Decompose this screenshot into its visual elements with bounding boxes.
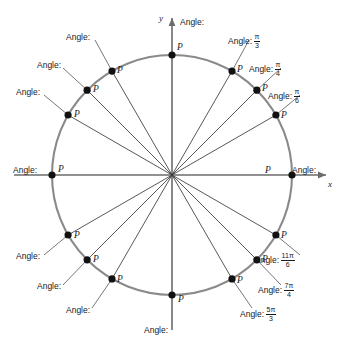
point-marker-150: P bbox=[74, 110, 80, 120]
angle-label-135: Angle: bbox=[37, 61, 61, 70]
angle-label-210: Angle: bbox=[16, 252, 40, 261]
radius-225 bbox=[87, 175, 172, 260]
angle-prefix-0: Angle: bbox=[292, 166, 316, 175]
point-marker-60: P bbox=[237, 65, 243, 75]
radius-300 bbox=[172, 175, 232, 279]
angle-fraction-315: 7π 4 bbox=[284, 282, 295, 298]
point-marker-210: P bbox=[74, 231, 80, 241]
fraction-numerator-30: π bbox=[294, 88, 301, 97]
radius-120 bbox=[112, 71, 172, 175]
radius-240 bbox=[112, 175, 172, 279]
point-150 bbox=[64, 111, 71, 118]
point-330 bbox=[272, 231, 279, 238]
radius-210 bbox=[68, 175, 172, 235]
radius-60 bbox=[172, 71, 232, 175]
angle-prefix-330: Angle: bbox=[255, 256, 279, 265]
unit-circle-figure: x y P P P P P P P P P P P P P P P P Angl… bbox=[0, 0, 341, 349]
x-axis-label: x bbox=[328, 180, 332, 189]
angle-label-120: Angle: bbox=[66, 33, 90, 42]
radius-135 bbox=[87, 90, 172, 175]
angle-label-0: Angle: bbox=[292, 166, 316, 175]
leader-150 bbox=[44, 95, 68, 115]
fraction-denominator-60: 3 bbox=[254, 42, 260, 50]
radius-150 bbox=[68, 115, 172, 175]
fraction-numerator-60: π bbox=[254, 33, 261, 42]
point-300 bbox=[228, 275, 235, 282]
point-marker-225: P bbox=[93, 255, 99, 265]
angle-label-225: Angle: bbox=[37, 282, 61, 291]
angle-prefix-315: Angle: bbox=[258, 286, 282, 295]
point-180 bbox=[48, 171, 55, 178]
point-30 bbox=[272, 111, 279, 118]
angle-prefix-120: Angle: bbox=[66, 33, 90, 42]
point-120 bbox=[108, 67, 115, 74]
fraction-denominator-30: 6 bbox=[294, 97, 300, 105]
fraction-numerator-45: π bbox=[275, 61, 282, 70]
angle-label-45: Angle: π 4 bbox=[249, 61, 281, 77]
point-135 bbox=[84, 87, 91, 94]
point-60 bbox=[228, 67, 235, 74]
fraction-denominator-330: 6 bbox=[285, 261, 291, 269]
radius-315 bbox=[172, 175, 257, 260]
point-marker-135: P bbox=[93, 85, 99, 95]
y-axis-arrow bbox=[169, 18, 176, 26]
point-240 bbox=[108, 275, 115, 282]
point-marker-0: P bbox=[265, 166, 271, 176]
angle-label-30: Angle: π 6 bbox=[268, 88, 300, 104]
radius-30 bbox=[172, 115, 276, 175]
angle-prefix-240: Angle: bbox=[66, 306, 90, 315]
point-90 bbox=[168, 51, 175, 58]
angle-prefix-30: Angle: bbox=[268, 92, 292, 101]
y-axis-label: y bbox=[159, 14, 163, 23]
point-marker-45: P bbox=[262, 84, 268, 94]
leader-240 bbox=[92, 279, 112, 308]
point-marker-90: P bbox=[177, 43, 183, 53]
fraction-numerator-315: 7π bbox=[284, 282, 295, 291]
angle-prefix-135: Angle: bbox=[37, 61, 61, 70]
angle-prefix-90: Angle: bbox=[180, 18, 204, 27]
angle-fraction-60: π 3 bbox=[254, 33, 261, 49]
angle-fraction-300: 5π 3 bbox=[266, 306, 277, 322]
point-210 bbox=[64, 231, 71, 238]
radius-45 bbox=[172, 90, 257, 175]
fraction-denominator-300: 3 bbox=[268, 315, 274, 323]
angle-prefix-150: Angle: bbox=[16, 88, 40, 97]
point-marker-120: P bbox=[117, 66, 123, 76]
angle-label-60: Angle: π 3 bbox=[228, 33, 260, 49]
angle-fraction-45: π 4 bbox=[275, 61, 282, 77]
point-marker-180: P bbox=[58, 165, 64, 175]
leader-135 bbox=[63, 68, 87, 90]
angle-label-180: Angle: bbox=[13, 166, 37, 175]
angle-prefix-225: Angle: bbox=[37, 282, 61, 291]
angle-label-270: Angle: bbox=[144, 326, 168, 335]
x-axis-arrow bbox=[318, 172, 326, 179]
point-marker-270: P bbox=[178, 295, 184, 305]
leader-120 bbox=[95, 40, 112, 71]
leader-210 bbox=[44, 235, 68, 255]
angle-prefix-300: Angle: bbox=[240, 310, 264, 319]
angle-label-150: Angle: bbox=[16, 88, 40, 97]
angle-prefix-180: Angle: bbox=[13, 166, 37, 175]
point-marker-240: P bbox=[117, 275, 123, 285]
point-270 bbox=[168, 291, 175, 298]
fraction-denominator-45: 4 bbox=[275, 70, 281, 78]
angle-prefix-60: Angle: bbox=[228, 37, 252, 46]
angle-fraction-330: 11π 6 bbox=[281, 252, 295, 268]
point-marker-330: P bbox=[281, 231, 287, 241]
point-225 bbox=[84, 256, 91, 263]
fraction-numerator-300: 5π bbox=[266, 306, 277, 315]
point-marker-300: P bbox=[237, 276, 243, 286]
fraction-numerator-330: 11π bbox=[281, 252, 295, 261]
angle-prefix-270: Angle: bbox=[144, 326, 168, 335]
point-45 bbox=[253, 87, 260, 94]
angle-prefix-210: Angle: bbox=[16, 252, 40, 261]
angle-label-330: Angle: 11π 6 bbox=[255, 252, 295, 268]
angle-label-300: Angle: 5π 3 bbox=[240, 306, 276, 322]
angle-fraction-30: π 6 bbox=[294, 88, 301, 104]
radius-330 bbox=[172, 175, 276, 235]
angle-label-90: Angle: bbox=[180, 18, 204, 27]
fraction-denominator-315: 4 bbox=[286, 291, 292, 299]
angle-prefix-45: Angle: bbox=[249, 65, 273, 74]
angle-label-240: Angle: bbox=[66, 306, 90, 315]
angle-label-315: Angle: 7π 4 bbox=[258, 282, 294, 298]
